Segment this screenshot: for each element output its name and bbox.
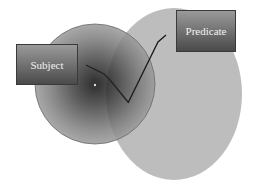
subject-label: Subject	[31, 59, 64, 71]
subject-label-box: Subject	[16, 44, 78, 85]
subject-center-dot	[94, 84, 96, 86]
predicate-label-box: Predicate	[176, 10, 236, 52]
predicate-label: Predicate	[186, 25, 227, 37]
